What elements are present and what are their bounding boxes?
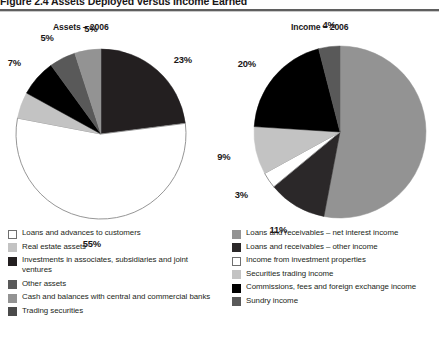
legend-item: Other assets [8, 279, 213, 290]
figure-rule-secondary [0, 11, 439, 12]
pie-chart-income: 53%11%3%9%20%4% [245, 42, 431, 222]
chart-panel-assets: Assets – 2006 23%55%5%7%5%5% Loans and a… [0, 16, 218, 340]
legend-label: Commissions, fees and foreign exchange i… [246, 282, 416, 292]
legend-label: Loans and advances to customers [22, 228, 141, 238]
legend-item: Loans and advances to customers [8, 228, 213, 239]
legend-swatch [232, 270, 241, 279]
legend-item: Cash and balances with central and comme… [8, 292, 213, 303]
legend-item: Real estate assets [8, 242, 213, 253]
legend-swatch [8, 243, 17, 252]
pie-slice-label: 7% [8, 57, 22, 68]
pie-slice-label: 3% [235, 189, 249, 200]
legend-item: Sundry income [232, 296, 437, 307]
legend-label: Loans and receivables – other income [246, 242, 378, 252]
chart-title-assets: Assets – 2006 [53, 22, 109, 32]
legend-swatch [8, 230, 17, 239]
legend-label: Income from investment properties [246, 255, 366, 265]
legend-label: Other assets [22, 279, 66, 289]
pie-slice-label: 9% [217, 151, 231, 162]
legend-item: Commissions, fees and foreign exchange i… [232, 282, 437, 293]
legend-label: Sundry income [246, 296, 298, 306]
pie-slice-label: 5% [84, 23, 98, 34]
legend-label: Loans and receivables – net interest inc… [246, 228, 398, 238]
pie-slice-label: 23% [174, 54, 193, 65]
pie-chart-assets: 23%55%5%7%5%5% [6, 42, 196, 222]
legend-swatch [232, 257, 241, 266]
legend-swatch [232, 284, 241, 293]
legend-swatch [8, 307, 17, 316]
legend-label: Investments in associates, subsidiaries … [22, 255, 213, 276]
legend-item: Loans and receivables – net interest inc… [232, 228, 437, 239]
legend-swatch [232, 230, 241, 239]
pie-slice [101, 49, 185, 134]
legend-item: Investments in associates, subsidiaries … [8, 255, 213, 276]
legend-item: Income from investment properties [232, 255, 437, 266]
legend-swatch [232, 297, 241, 306]
legend-income: Loans and receivables – net interest inc… [232, 228, 437, 309]
figure-container: Figure 2.4 Assets Deployed versus Income… [0, 0, 439, 340]
legend-label: Trading securities [22, 306, 83, 316]
figure-caption: Figure 2.4 Assets Deployed versus Income… [0, 0, 439, 8]
pie-slice-label: 20% [238, 58, 257, 69]
legend-swatch [8, 257, 17, 266]
legend-swatch [232, 243, 241, 252]
legend-label: Real estate assets [22, 242, 86, 252]
legend-item: Loans and receivables – other income [232, 242, 437, 253]
legend-swatch [8, 294, 17, 303]
legend-item: Trading securities [8, 306, 213, 317]
legend-item: Securities trading income [232, 269, 437, 280]
legend-assets: Loans and advances to customersReal esta… [8, 228, 213, 319]
chart-panel-income: Income – 2006 53%11%3%9%20%4% Loans and … [218, 16, 439, 340]
pie-slice-label: 5% [41, 32, 55, 43]
pie-slice-label: 4% [322, 19, 336, 30]
chart-title-income: Income – 2006 [291, 22, 348, 32]
legend-label: Cash and balances with central and comme… [22, 292, 210, 302]
legend-swatch [8, 280, 17, 289]
legend-label: Securities trading income [246, 269, 333, 279]
